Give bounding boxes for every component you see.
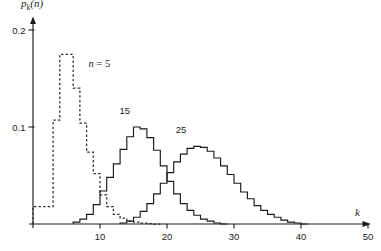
y-tick-label-0.1: 0.1 bbox=[12, 122, 25, 133]
x-tick-label-30: 30 bbox=[229, 231, 240, 242]
x-tick-label-40: 40 bbox=[296, 231, 307, 242]
figure-root: 1020304050 0.10.2 n= 51525 pk(n) k bbox=[0, 0, 381, 251]
poisson-distribution-chart: 1020304050 0.10.2 n= 51525 pk(n) k bbox=[0, 0, 381, 251]
y-axis-ticks: 0.10.2 bbox=[12, 25, 34, 133]
series-label-15: 15 bbox=[120, 105, 131, 116]
series-label-25: 25 bbox=[176, 124, 187, 135]
y-axis-arrowhead bbox=[30, 16, 36, 24]
y-axis-title: pk(n) bbox=[20, 0, 43, 12]
x-axis-ticks: 1020304050 bbox=[95, 224, 374, 242]
data-curves bbox=[33, 54, 308, 224]
curve-25 bbox=[120, 146, 308, 224]
axes-group bbox=[29, 16, 371, 228]
x-tick-label-20: 20 bbox=[162, 231, 173, 242]
x-axis-title: k bbox=[355, 206, 361, 218]
x-axis-arrowhead bbox=[363, 221, 372, 227]
series-label-n-5: n= 5 bbox=[89, 58, 111, 69]
x-tick-label-10: 10 bbox=[95, 231, 106, 242]
curve-annotations: n= 51525 bbox=[89, 58, 187, 135]
curve-n-5 bbox=[33, 54, 160, 224]
x-tick-label-50: 50 bbox=[363, 231, 374, 242]
y-tick-label-0.2: 0.2 bbox=[12, 25, 25, 36]
curve-15 bbox=[73, 127, 227, 224]
